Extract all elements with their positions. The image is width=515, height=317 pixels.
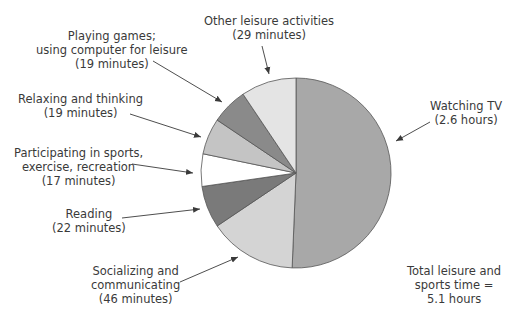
total-annotation: Total leisure and sports time = 5.1 hour…: [407, 264, 501, 306]
label-other: Other leisure activities (29 minutes): [204, 14, 334, 42]
pie-slices: [201, 78, 391, 268]
arrow-socializing: [180, 257, 238, 282]
label-sports: Participating in sports, exercise, recre…: [14, 146, 143, 188]
label-reading: Reading (22 minutes): [52, 207, 126, 235]
arrow-other: [262, 46, 269, 74]
pie-slice-watching-tv: [292, 78, 391, 268]
label-relaxing: Relaxing and thinking (19 minutes): [18, 92, 143, 120]
label-socializing: Socializing and communicating (46 minute…: [91, 264, 180, 306]
label-tv: Watching TV (2.6 hours): [430, 99, 502, 127]
arrow-reading: [122, 209, 200, 218]
arrow-tv: [396, 122, 430, 141]
label-games: Playing games; using computer for leisur…: [36, 29, 188, 71]
